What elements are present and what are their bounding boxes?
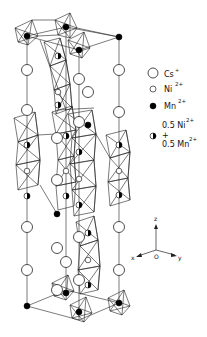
axis-label-y: y xyxy=(178,254,182,262)
legend-charge-cs: + xyxy=(175,67,179,73)
legend: Cs + Ni 2+ Mn 2+ 0.5 Ni 2+ + 0.5 Mn 2+ xyxy=(148,67,197,149)
axis-origin-label: O xyxy=(154,253,159,260)
legend-plus: + xyxy=(162,131,169,140)
legend-label-mixed-mn: 0.5 Mn xyxy=(162,140,189,149)
legend-item-mixed: 0.5 Ni 2+ + 0.5 Mn 2+ xyxy=(150,117,197,149)
axis-indicator: z x y O xyxy=(131,215,182,262)
legend-label-ni: Ni xyxy=(164,85,172,94)
legend-item-cs: Cs + xyxy=(148,67,179,79)
mn-symbol-icon xyxy=(150,103,156,109)
mn-ions xyxy=(24,24,122,315)
legend-label-mn: Mn xyxy=(164,102,176,111)
legend-label-cs: Cs xyxy=(164,70,174,79)
mixed-ions xyxy=(24,53,122,288)
half-filled-circle-icon xyxy=(150,133,156,139)
cs-ions xyxy=(22,65,125,296)
axis-label-z: z xyxy=(154,215,157,222)
legend-charge-mixed-mn: 2+ xyxy=(189,136,197,142)
cs-symbol-icon xyxy=(148,68,158,78)
legend-item-mn: Mn 2+ xyxy=(150,98,186,111)
legend-charge-ni: 2+ xyxy=(175,81,183,87)
axis-label-x: x xyxy=(131,254,135,261)
legend-charge-mn: 2+ xyxy=(178,98,186,104)
octahedra-chain-middle xyxy=(14,106,130,216)
legend-item-ni: Ni 2+ xyxy=(150,81,183,94)
legend-label-mixed-ni: 0.5 Ni xyxy=(162,121,185,130)
crystal-structure-diagram: Cs + Ni 2+ Mn 2+ 0.5 Ni 2+ + 0.5 Mn 2+ xyxy=(0,0,207,337)
unit-cell-edges xyxy=(27,27,119,320)
ni-symbol-icon xyxy=(150,86,156,92)
legend-charge-mixed-ni: 2+ xyxy=(186,117,194,123)
